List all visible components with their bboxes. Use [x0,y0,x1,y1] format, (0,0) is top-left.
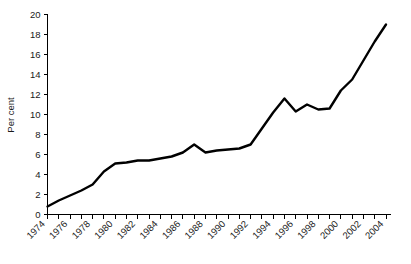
x-tick-marks [48,215,387,219]
x-tick-label: 2002 [340,218,363,241]
y-tick-label: 2 [35,189,40,200]
chart-container: 02468101214161820 Per cent 1974197619781… [0,0,411,264]
x-tick-label: 1988 [182,218,205,241]
x-tick-label: 1994 [250,218,273,241]
x-tick-label: 1974 [24,218,47,241]
x-tick-label: 1998 [295,218,318,241]
y-tick-label: 4 [35,169,40,180]
x-tick-label: 2004 [363,218,386,241]
x-tick-label: 1978 [69,218,92,241]
y-axis: 02468101214161820 Per cent [5,9,48,220]
x-tick-label: 1980 [92,218,115,241]
x-tick-label: 2000 [318,218,341,241]
x-tick-label: 1986 [160,218,183,241]
y-tick-label: 20 [30,9,41,20]
y-tick-label: 10 [30,109,41,120]
x-tick-label: 1982 [114,218,137,241]
y-tick-label: 12 [30,89,41,100]
x-tick-labels: 1974197619781980198219841986198819901992… [24,218,385,241]
y-tick-labels: 02468101214161820 [30,9,41,220]
x-tick-label: 1996 [272,218,295,241]
line-chart: 02468101214161820 Per cent 1974197619781… [0,0,411,264]
y-axis-title: Per cent [5,97,16,133]
y-tick-label: 18 [30,29,41,40]
x-tick-label: 1990 [205,218,228,241]
y-tick-label: 14 [30,69,41,80]
data-line-series-0 [48,25,387,207]
x-tick-label: 1984 [137,218,160,241]
y-tick-label: 6 [35,149,40,160]
y-tick-label: 16 [30,49,41,60]
x-axis: 1974197619781980198219841986198819901992… [24,215,391,241]
data-series-group [48,25,387,207]
x-tick-label: 1976 [47,218,70,241]
x-tick-label: 1992 [227,218,250,241]
y-tick-label: 8 [35,129,40,140]
y-tick-marks [44,15,48,215]
